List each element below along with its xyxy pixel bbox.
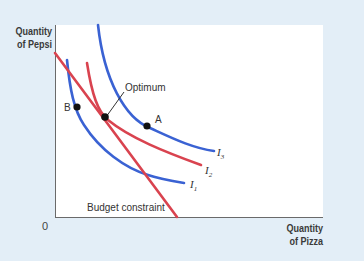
optimum-label: Optimum: [125, 82, 166, 93]
i3-label: I3: [216, 146, 225, 161]
diagram-canvas: Optimum A B Budget constraint I3 I2 I1: [0, 0, 364, 261]
point-a: [143, 122, 150, 129]
point-a-label: A: [155, 114, 162, 125]
point-b-label: B: [64, 102, 71, 113]
point-b: [73, 103, 80, 110]
indifference-curve-i1: [67, 60, 184, 183]
budget-constraint-label: Budget constraint: [87, 202, 165, 213]
budget-constraint-line: [55, 53, 177, 217]
optimum-pointer: [106, 92, 124, 117]
point-optimum: [101, 113, 109, 121]
i2-label: I2: [204, 164, 213, 179]
i1-label: I1: [189, 178, 197, 193]
